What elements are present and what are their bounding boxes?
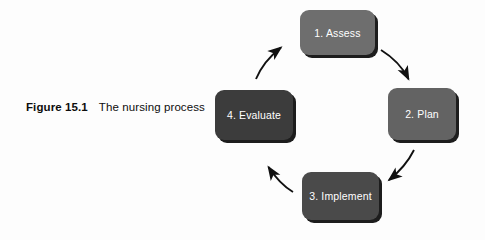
arrow-assess-to-plan (381, 50, 409, 79)
figure-container: Figure 15.1The nursing process 1. Assess… (0, 0, 485, 240)
arrow-evaluate-to-assess (256, 48, 281, 80)
process-node-implement[interactable]: 3. Implement (302, 172, 379, 220)
arrow-plan-to-implement (389, 150, 414, 180)
process-node-evaluate[interactable]: 4. Evaluate (215, 90, 293, 140)
process-node-assess[interactable]: 1. Assess (300, 10, 375, 55)
process-node-assess-label: 1. Assess (314, 27, 360, 39)
process-node-implement-label: 3. Implement (309, 190, 372, 202)
process-node-plan-label: 2. Plan (405, 108, 439, 120)
arrow-implement-to-evaluate (269, 167, 294, 192)
process-node-plan[interactable]: 2. Plan (388, 88, 456, 140)
process-node-evaluate-label: 4. Evaluate (227, 109, 281, 121)
